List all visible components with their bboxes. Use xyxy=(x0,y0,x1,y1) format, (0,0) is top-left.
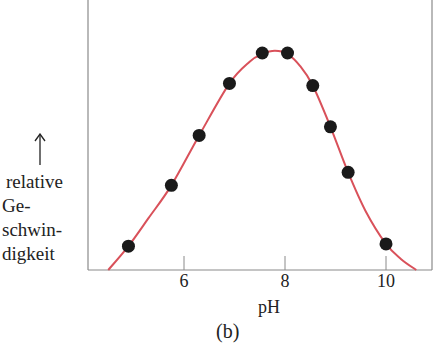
y-label-line: schwin- xyxy=(2,218,86,242)
x-tick-label: 10 xyxy=(377,271,395,292)
data-points xyxy=(122,47,393,253)
data-point xyxy=(256,47,269,60)
data-point xyxy=(193,129,206,142)
y-label-line: relative xyxy=(2,170,86,194)
x-tick-label: 8 xyxy=(281,271,290,292)
data-point xyxy=(324,120,337,133)
data-point xyxy=(380,237,393,250)
x-axis-label: pH xyxy=(258,297,280,318)
figure-caption: (b) xyxy=(216,320,239,343)
x-tick-label: 6 xyxy=(180,271,189,292)
data-point xyxy=(342,166,355,179)
y-label-line: digkeit xyxy=(2,242,86,266)
y-label-line: Ge- xyxy=(2,194,86,218)
data-point xyxy=(122,240,135,253)
data-point xyxy=(223,77,236,90)
data-point xyxy=(306,79,319,92)
data-point xyxy=(165,179,178,192)
y-axis-label: relative Ge- schwin- digkeit xyxy=(2,170,86,266)
up-arrow-icon xyxy=(34,133,46,165)
x-ticks xyxy=(184,256,386,270)
data-point xyxy=(281,47,294,60)
fitted-curve xyxy=(108,51,416,270)
